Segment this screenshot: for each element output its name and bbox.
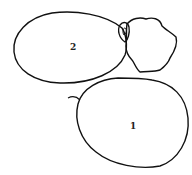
connector-stroke [68, 97, 80, 100]
shape-label-2: 2 [70, 42, 76, 52]
irregular-blob-shape [126, 18, 177, 72]
diagram-canvas: 2 1 [0, 0, 192, 175]
shape-label-1: 1 [130, 121, 136, 131]
diagram-drawing [0, 0, 192, 175]
